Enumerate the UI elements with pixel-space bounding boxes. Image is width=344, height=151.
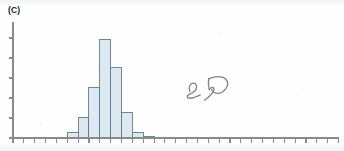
histogram-bar xyxy=(122,112,133,138)
handwritten-annotation-25 xyxy=(183,57,239,109)
histogram-plot xyxy=(0,0,344,151)
y-axis-group xyxy=(9,22,13,138)
histogram-bar xyxy=(89,87,100,138)
histogram-bar xyxy=(78,117,89,138)
histogram-bar xyxy=(111,67,122,138)
histogram-bar xyxy=(67,132,78,138)
histogram-figure-panel: (C) xyxy=(0,0,344,151)
histogram-bar xyxy=(100,39,111,138)
x-axis-group xyxy=(13,138,339,143)
handwritten-25-ink xyxy=(183,57,239,109)
bars-group xyxy=(67,39,154,138)
histogram-bar xyxy=(132,132,143,138)
plot-area xyxy=(0,0,344,151)
